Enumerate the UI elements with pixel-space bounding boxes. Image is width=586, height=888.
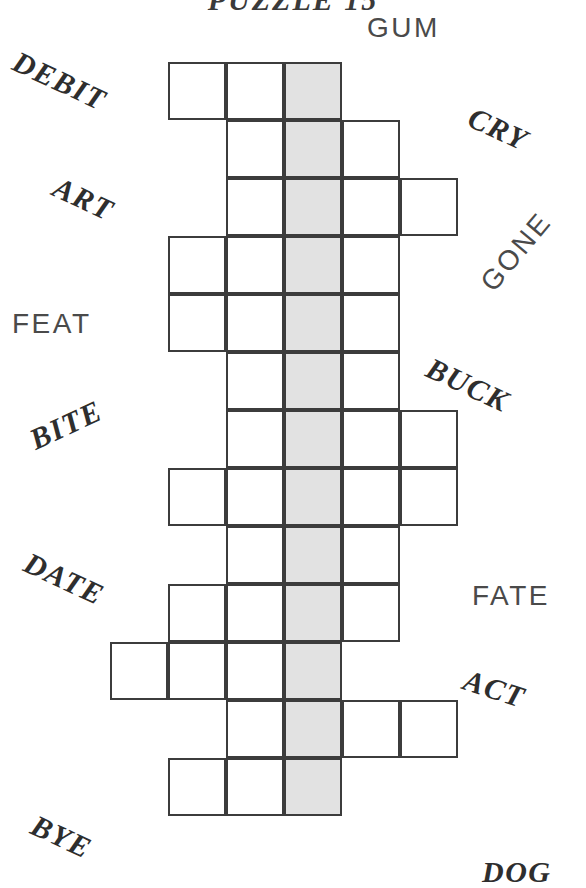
grid-cell-shaded[interactable]	[284, 642, 342, 700]
grid-row	[0, 700, 586, 758]
grid-cell[interactable]	[168, 468, 226, 526]
grid-row	[0, 468, 586, 526]
grid-cell-shaded[interactable]	[284, 758, 342, 816]
grid-cell[interactable]	[226, 410, 284, 468]
grid-cell[interactable]	[342, 120, 400, 178]
grid-cell[interactable]	[342, 410, 400, 468]
grid-cell[interactable]	[168, 62, 226, 120]
grid-cell[interactable]	[400, 700, 458, 758]
grid-cell-shaded[interactable]	[284, 410, 342, 468]
grid-cell-shaded[interactable]	[284, 236, 342, 294]
grid-cell[interactable]	[400, 178, 458, 236]
grid-cell[interactable]	[342, 352, 400, 410]
grid-cell[interactable]	[226, 468, 284, 526]
grid-cell-shaded[interactable]	[284, 526, 342, 584]
grid-cell-shaded[interactable]	[284, 294, 342, 352]
grid-cell[interactable]	[400, 410, 458, 468]
grid-cell[interactable]	[168, 584, 226, 642]
grid-cell[interactable]	[226, 352, 284, 410]
grid-cell-shaded[interactable]	[284, 178, 342, 236]
grid-cell[interactable]	[342, 584, 400, 642]
grid-cell-shaded[interactable]	[284, 62, 342, 120]
grid-cell[interactable]	[342, 236, 400, 294]
grid-cell[interactable]	[226, 236, 284, 294]
grid-cell[interactable]	[342, 294, 400, 352]
grid-cell[interactable]	[342, 178, 400, 236]
grid-cell-shaded[interactable]	[284, 700, 342, 758]
grid-cell-shaded[interactable]	[284, 120, 342, 178]
grid-cell[interactable]	[226, 758, 284, 816]
grid-cell-shaded[interactable]	[284, 468, 342, 526]
grid-cell[interactable]	[342, 468, 400, 526]
grid-cell[interactable]	[400, 468, 458, 526]
grid-cell[interactable]	[226, 294, 284, 352]
clue-word-dog: DOG	[482, 855, 552, 888]
clue-word-gum: GUM	[367, 12, 440, 44]
grid-cell[interactable]	[342, 700, 400, 758]
grid-cell[interactable]	[226, 62, 284, 120]
puzzle-canvas: PUZZLE 15 GUMDEBITCRYARTGONEFEATBUCKBITE…	[0, 0, 586, 888]
grid-cell[interactable]	[226, 642, 284, 700]
grid-row	[0, 758, 586, 816]
grid-cell[interactable]	[110, 642, 168, 700]
grid-cell-shaded[interactable]	[284, 584, 342, 642]
grid-cell[interactable]	[168, 642, 226, 700]
grid-cell[interactable]	[226, 526, 284, 584]
grid-cell[interactable]	[226, 584, 284, 642]
grid-cell[interactable]	[226, 178, 284, 236]
grid-cell[interactable]	[226, 700, 284, 758]
clue-word-fate: FATE	[472, 580, 550, 612]
grid-cell-shaded[interactable]	[284, 352, 342, 410]
grid-cell[interactable]	[168, 758, 226, 816]
grid-cell[interactable]	[226, 120, 284, 178]
clue-word-feat: FEAT	[12, 308, 91, 340]
grid-cell[interactable]	[168, 294, 226, 352]
grid-cell[interactable]	[342, 526, 400, 584]
grid-cell[interactable]	[168, 236, 226, 294]
